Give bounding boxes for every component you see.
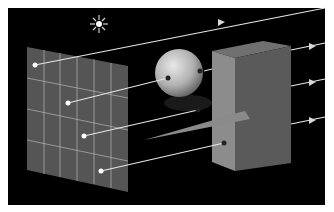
ray-tracing-diagram [0,0,334,212]
sphere-shadow [164,95,212,111]
box-shape [212,41,291,171]
image-plane-grid [27,47,128,192]
sphere-shape [155,49,203,97]
